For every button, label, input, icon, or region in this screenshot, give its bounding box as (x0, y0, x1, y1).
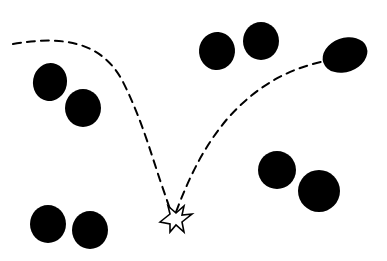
black-dot-top-left-b (65, 89, 101, 127)
black-dot-mid-right-a (258, 151, 296, 189)
black-dot-bottom-left-b (72, 211, 108, 249)
black-dot-bottom-left-a (30, 205, 66, 243)
black-dot-top-mid-b (243, 22, 279, 60)
dot-group (30, 22, 372, 249)
black-dot-mid-right-b (298, 170, 340, 212)
black-dot-top-left-a (30, 60, 70, 103)
black-dot-top-mid-a (197, 31, 236, 72)
black-dot-top-right (318, 31, 373, 79)
dashed-trajectory-incoming (13, 41, 171, 212)
diagram-canvas (0, 0, 387, 261)
illustration (0, 0, 387, 261)
